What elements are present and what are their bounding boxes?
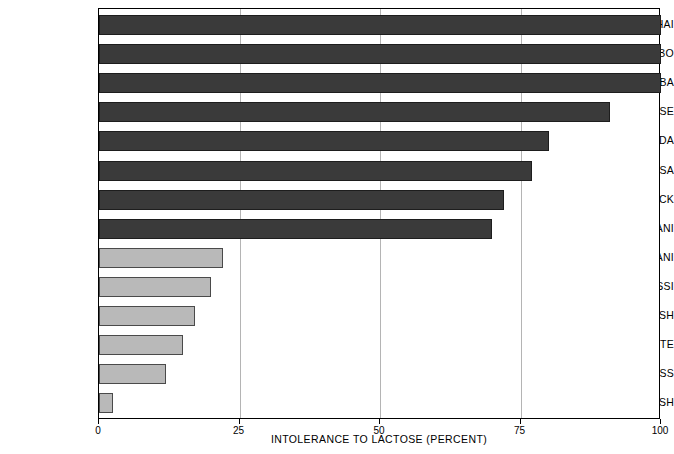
bar-ganda — [99, 131, 549, 151]
lactose-intolerance-bar-chart: THAIIBOYORUBACHINESEGANDAHAUSAU.S. BLACK… — [0, 0, 674, 454]
bar-row — [99, 127, 661, 156]
bar-tussi — [99, 277, 211, 297]
bar-row — [99, 273, 661, 302]
bar-row — [99, 360, 661, 389]
bar-yoruba — [99, 73, 661, 93]
x-tick-mark-0 — [98, 419, 99, 424]
bar-row — [99, 215, 661, 244]
x-tick-mark-50 — [379, 419, 380, 424]
plot-area — [98, 8, 660, 419]
bar-u-s-black — [99, 190, 504, 210]
bar-row — [99, 186, 661, 215]
bar-swiss — [99, 364, 166, 384]
x-axis-title: INTOLERANCE TO LACTOSE (PERCENT) — [98, 433, 660, 445]
bar-hausa — [99, 161, 532, 181]
x-tick-mark-25 — [239, 419, 240, 424]
bar-u-s-white — [99, 335, 183, 355]
bar-row — [99, 69, 661, 98]
x-tick-mark-75 — [520, 419, 521, 424]
bar-row — [99, 11, 661, 40]
bar-thai — [99, 15, 661, 35]
bar-row — [99, 40, 661, 69]
bar-row — [99, 389, 661, 418]
bar-hausa-fulani — [99, 219, 492, 239]
bar-chinese — [99, 102, 610, 122]
x-tick-mark-100 — [660, 419, 661, 424]
bar-row — [99, 244, 661, 273]
bar-swedish — [99, 393, 113, 413]
bar-row — [99, 157, 661, 186]
bar-row — [99, 331, 661, 360]
bar-fulani — [99, 248, 223, 268]
bar-row — [99, 302, 661, 331]
bar-ibo — [99, 44, 661, 64]
bar-row — [99, 98, 661, 127]
bar-finnish — [99, 306, 195, 326]
